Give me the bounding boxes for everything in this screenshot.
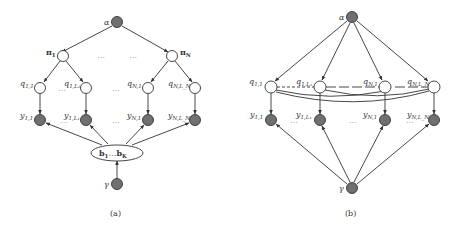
edge-piN-qNLN [175, 61, 192, 82]
node-yN1-a [143, 115, 154, 126]
ellipsis-q-a-1: … [58, 84, 66, 93]
label-q11-b: q1,1 [249, 77, 263, 87]
edge-alpha-pi1 [62, 26, 112, 52]
panel-b: α q1,1 q1,L₁ qN,1 qN,L_N y1,1 y1,L₁ yN,1… [249, 12, 440, 219]
node-y1L1-b [315, 115, 326, 126]
edge-b-y11 [46, 123, 102, 145]
edge-alpha-piN [122, 26, 168, 52]
label-alpha-b: α [339, 13, 345, 22]
node-yN1-b [380, 115, 391, 126]
label-y11-a: y1,1 [19, 111, 33, 121]
edge-b-yNLN [132, 123, 189, 145]
caption-a: (a) [110, 209, 121, 218]
node-alpha-a [112, 17, 123, 28]
node-qNLN-b [428, 81, 440, 93]
node-qN1-b [379, 81, 391, 93]
label-yN1-b: yN,1 [362, 110, 377, 120]
graphical-models-figure: α π1 πN … … q1,1 q1,L₁ qN,1 qN,L_N … … y… [0, 0, 459, 229]
label-qNLN-b: qN,L_N [407, 77, 430, 88]
ellipsis-y-b-1: … [290, 116, 298, 125]
ellipsis-pi-2: … [129, 51, 137, 60]
node-yNLN-b [429, 115, 440, 126]
label-gamma-b: γ [339, 184, 344, 193]
node-qNLN-a [190, 83, 201, 94]
edge-gamma-yNLN [357, 124, 429, 184]
node-alpha-b [347, 12, 358, 23]
edge-gamma-y1L1 [322, 126, 350, 182]
node-y1L1-a [81, 115, 92, 126]
node-y11-a [35, 115, 46, 126]
label-yNLN-a: yN,L_N [167, 111, 190, 122]
label-qN1-b: qN,1 [363, 77, 378, 87]
ellipsis-y-b-2: … [349, 116, 357, 125]
uedge-q11-qNLN [276, 91, 429, 102]
label-qNLN-a: qN,L_N [168, 79, 191, 90]
node-q1L1-b [314, 81, 326, 93]
label-pi1: π1 [46, 47, 56, 58]
edge-piN-qN1 [151, 61, 168, 82]
label-qN1-a: qN,1 [127, 79, 142, 89]
node-piN [167, 51, 178, 62]
edge-alpha-qN1 [354, 23, 382, 80]
node-qN1-a [143, 83, 154, 94]
label-alpha-a: α [104, 18, 110, 27]
label-q1L1-a: q1,L₁ [64, 79, 80, 89]
label-y11-b: y1,1 [249, 110, 263, 120]
node-gamma-a [112, 179, 123, 190]
edge-gamma-yN1 [354, 126, 383, 182]
node-gamma-b [347, 183, 358, 194]
caption-b: (b) [345, 209, 356, 218]
label-yN1-a: yN,1 [126, 111, 141, 121]
edge-alpha-q1L1 [322, 23, 350, 80]
node-q11-b [265, 81, 277, 93]
node-q1L1-a [81, 83, 92, 94]
node-q11-a [35, 83, 46, 94]
label-q11-a: q1,1 [20, 79, 34, 89]
edge-pi1-q11 [44, 61, 60, 82]
ellipsis-y-a-2: … [112, 116, 120, 125]
node-yNLN-a [190, 115, 201, 126]
label-piN: πN [180, 47, 191, 58]
panel-a: α π1 πN … … q1,1 q1,L₁ qN,1 qN,L_N … … y… [19, 17, 201, 219]
node-y11-b [266, 115, 277, 126]
ellipsis-y-b-3: … [406, 116, 414, 125]
ellipsis-y-a-1: … [60, 116, 68, 125]
node-pi1 [58, 51, 69, 62]
ellipsis-pi-1: … [97, 51, 105, 60]
ellipsis-q-a-2: … [112, 84, 120, 93]
label-q1L1-b: q1,L₁ [296, 77, 312, 87]
label-gamma-a: γ [104, 180, 109, 189]
